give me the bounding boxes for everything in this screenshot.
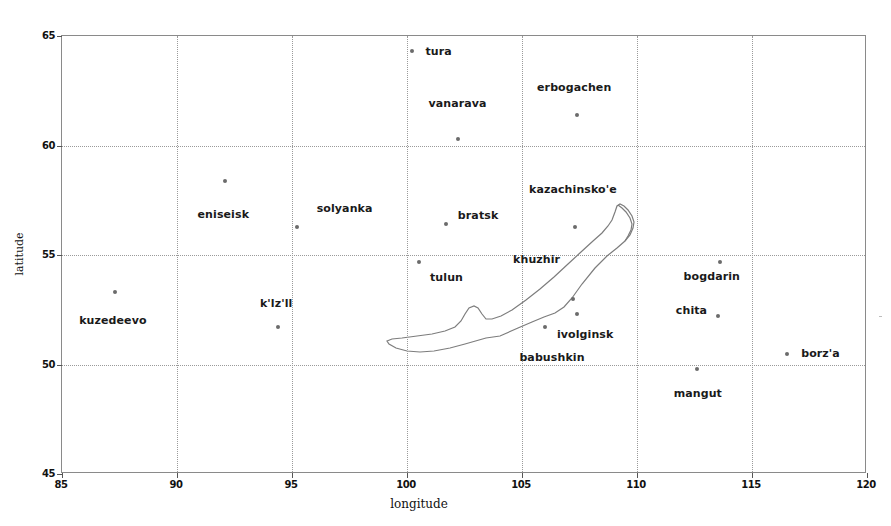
data-point-label: tulun [430, 270, 463, 283]
x-tick-label: 115 [741, 479, 760, 490]
y-tick-label: 45 [33, 468, 55, 479]
y-tick [57, 474, 62, 475]
data-point [456, 137, 460, 141]
data-point-label: vanarava [429, 96, 487, 109]
data-point [785, 352, 789, 356]
figure-canvas: turavanaravaerbogacheneniseiskkazachinsk… [0, 0, 891, 526]
data-point [573, 225, 577, 229]
data-point [543, 325, 547, 329]
data-point [223, 179, 227, 183]
data-point-label: bratsk [458, 209, 498, 222]
x-tick-label: 110 [626, 479, 645, 490]
x-tick-label: 85 [55, 479, 68, 490]
data-point [575, 312, 579, 316]
x-tick-label: 105 [511, 479, 530, 490]
x-tick [637, 473, 638, 478]
data-point [695, 367, 699, 371]
x-tick [407, 473, 408, 478]
gridline-vertical [177, 36, 178, 472]
data-point [571, 297, 575, 301]
data-point-label: kuzedeevo [79, 314, 146, 327]
y-tick [57, 36, 62, 37]
data-point-label: tura [425, 45, 451, 58]
x-tick [177, 473, 178, 478]
data-point [575, 113, 579, 117]
gridline-horizontal [62, 255, 865, 256]
y-tick [57, 365, 62, 366]
data-point-label: chita [676, 304, 707, 317]
x-tick [867, 473, 868, 478]
data-point [410, 49, 414, 53]
x-tick-label: 90 [170, 479, 183, 490]
x-tick-label: 120 [856, 479, 875, 490]
y-tick-label: 60 [33, 139, 55, 150]
data-point [718, 260, 722, 264]
data-point [716, 314, 720, 318]
gridline-vertical [637, 36, 638, 472]
data-point [444, 222, 448, 226]
gridline-vertical [407, 36, 408, 472]
y-tick [57, 255, 62, 256]
data-point-label: babushkin [519, 351, 584, 364]
data-point [276, 325, 280, 329]
y-tick-label: 65 [33, 30, 55, 41]
data-point-label: ivolginsk [557, 328, 614, 341]
gridline-horizontal [62, 365, 865, 366]
x-tick-label: 100 [396, 479, 415, 490]
data-point [295, 225, 299, 229]
y-tick-label: 55 [33, 249, 55, 260]
data-point [417, 260, 421, 264]
gridline-vertical [752, 36, 753, 472]
x-tick [292, 473, 293, 478]
data-point-label: erbogachen [537, 80, 611, 93]
data-point-label: mangut [674, 386, 722, 399]
data-point-label: kazachinsko'e [529, 182, 617, 195]
x-tick [752, 473, 753, 478]
data-point-label: borz'a [801, 346, 840, 359]
data-point [113, 290, 117, 294]
data-point-label: solyanka [317, 201, 373, 214]
stray-mark [879, 316, 882, 317]
y-tick-label: 50 [33, 358, 55, 369]
x-tick-label: 95 [285, 479, 298, 490]
data-point-label: bogdarin [684, 269, 740, 282]
data-point-label: k'lz'll [260, 297, 292, 310]
y-tick [57, 146, 62, 147]
gridline-horizontal [62, 146, 865, 147]
data-point-label: khuzhir [513, 252, 560, 265]
gridline-vertical [292, 36, 293, 472]
x-tick [522, 473, 523, 478]
x-tick [62, 473, 63, 478]
data-point-label: eniseisk [198, 207, 250, 220]
x-axis-label: longitude [390, 497, 448, 511]
plot-area: turavanaravaerbogacheneniseiskkazachinsk… [61, 35, 866, 473]
y-axis-label: latitude [13, 232, 26, 275]
